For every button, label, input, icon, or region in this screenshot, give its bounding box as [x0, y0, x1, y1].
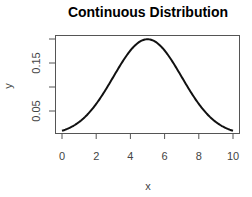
chart-title: Continuous Distribution: [68, 4, 228, 20]
y-axis-label: y: [2, 83, 14, 89]
density-curve: [62, 39, 233, 131]
chart: Continuous Distribution 0246810 0.050.15…: [0, 0, 252, 197]
x-tick-label: 8: [196, 150, 202, 162]
x-tick-label: 6: [162, 150, 168, 162]
x-tick-label: 2: [93, 150, 99, 162]
y-tick-label: 0.05: [30, 100, 42, 121]
x-axis: 0246810: [59, 134, 239, 162]
x-tick-label: 10: [227, 150, 239, 162]
y-axis: 0.050.15: [30, 39, 55, 122]
y-tick-label: 0.15: [30, 52, 42, 73]
x-tick-label: 0: [59, 150, 65, 162]
x-axis-label: x: [145, 180, 151, 192]
x-tick-label: 4: [127, 150, 133, 162]
